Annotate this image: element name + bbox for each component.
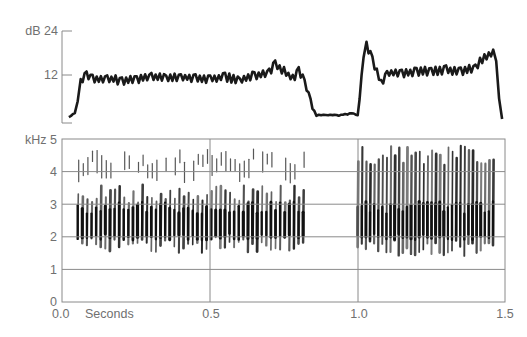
x-tick-1-5: 1.5 [496,307,513,321]
khz-axis-labels: kHz 5 4 3 2 1 0 [25,133,57,309]
khz-tick-3: 3 [50,198,57,212]
x-axis-labels: 0.0 Seconds 0.5 1.0 1.5 [52,307,514,321]
x-tick-0-5: 0.5 [202,307,219,321]
amplitude-axis: dB 24 12 [25,24,72,123]
khz-tick-4: 4 [50,165,57,179]
x-axis-title: Seconds [85,307,134,321]
x-tick-0: 0.0 [52,307,69,321]
khz-axis-label: kHz 5 [25,133,57,147]
khz-tick-1: 1 [50,263,57,277]
db-axis-label: dB 24 [25,24,58,38]
x-tick-1-0: 1.0 [350,307,367,321]
db-tick-12: 12 [44,68,58,82]
sonogram-figure: dB 24 12 kHz 5 4 3 2 1 0 0.0 Seconds 0.5… [0,0,527,337]
amplitude-trace [69,42,502,119]
spectrogram-streaks [78,146,494,256]
khz-tick-2: 2 [50,230,57,244]
